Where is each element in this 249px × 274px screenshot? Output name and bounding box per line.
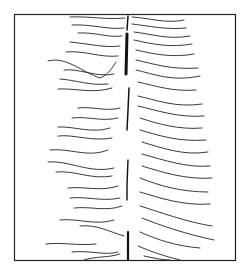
central-spine	[126, 16, 129, 260]
frame-border	[15, 15, 236, 261]
left-barbs	[46, 17, 125, 260]
feather-drawing	[0, 0, 249, 274]
right-barbs	[132, 17, 214, 260]
